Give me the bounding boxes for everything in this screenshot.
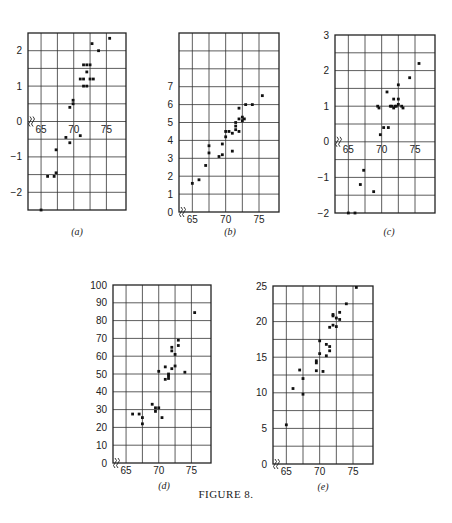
- data-point: [238, 118, 241, 121]
- x-tick-label: 65: [187, 214, 199, 225]
- data-point: [89, 63, 92, 66]
- data-point: [355, 286, 358, 289]
- data-point: [238, 107, 241, 110]
- data-point: [243, 118, 246, 121]
- y-tick-label: 0: [167, 207, 173, 218]
- scatter-plot-e: 0510152025657075: [273, 286, 373, 464]
- scatter-plot-d: 0102030405060708090100657075: [113, 285, 211, 463]
- y-tick-label: 2: [323, 65, 329, 76]
- x-tick-label: 65: [36, 124, 48, 135]
- data-point: [315, 369, 318, 372]
- data-point: [79, 134, 82, 137]
- data-point: [221, 153, 224, 156]
- data-point: [79, 78, 82, 81]
- y-tick-label: −1: [318, 172, 330, 183]
- y-tick-label: 100: [90, 280, 107, 291]
- x-tick-label: 70: [376, 144, 388, 155]
- y-tick-label: 50: [96, 369, 108, 380]
- y-tick-label: 20: [256, 316, 268, 327]
- data-point: [97, 49, 100, 52]
- data-point: [302, 377, 305, 380]
- x-tick-label: 70: [314, 466, 326, 477]
- y-tick-label: 90: [96, 297, 108, 308]
- data-point: [131, 413, 134, 416]
- data-point: [234, 125, 237, 128]
- scatter-panel-d: 0102030405060708090100657075: [113, 285, 211, 463]
- scatter-plot-a: −2−1012657075: [28, 33, 126, 210]
- y-tick-label: 40: [96, 386, 108, 397]
- y-tick-label: 70: [96, 333, 108, 344]
- data-point: [261, 94, 264, 97]
- scatter-plot-b: 01234567657075: [179, 33, 279, 212]
- y-tick-label: 10: [256, 387, 268, 398]
- data-point: [332, 324, 335, 327]
- data-point: [221, 143, 224, 146]
- y-tick-label: 30: [96, 404, 108, 415]
- data-point: [177, 344, 180, 347]
- data-point: [359, 183, 362, 186]
- y-tick-label: 6: [167, 99, 173, 110]
- data-point: [397, 98, 400, 101]
- data-point: [392, 98, 395, 101]
- y-tick-label: 5: [261, 423, 267, 434]
- data-point: [328, 326, 331, 329]
- data-point: [55, 171, 58, 174]
- scatter-panel-e: 0510152025657075: [273, 286, 373, 464]
- y-tick-label: 4: [167, 135, 173, 146]
- data-point: [154, 406, 157, 409]
- x-tick-label: 65: [343, 144, 355, 155]
- data-point: [234, 121, 237, 124]
- scatter-panel-b: 01234567657075: [179, 33, 279, 212]
- data-point: [387, 126, 390, 129]
- x-tick-label: 70: [220, 214, 232, 225]
- data-point: [68, 141, 71, 144]
- data-point: [89, 78, 92, 81]
- y-tick-label: 15: [256, 352, 268, 363]
- data-point: [138, 413, 141, 416]
- data-point: [85, 71, 88, 74]
- y-tick-label: 60: [96, 351, 108, 362]
- data-point: [108, 37, 111, 40]
- y-tick-label: 0: [261, 459, 267, 470]
- y-tick-label: −1: [11, 151, 23, 162]
- data-point: [292, 387, 295, 390]
- data-point: [154, 410, 157, 413]
- data-point: [347, 212, 350, 215]
- data-point: [328, 349, 331, 352]
- scatter-plot-c: −2−10123657075: [335, 35, 435, 213]
- data-point: [402, 107, 405, 110]
- y-tick-label: 1: [167, 189, 173, 200]
- data-point: [167, 377, 170, 380]
- data-point: [318, 339, 321, 342]
- data-point: [244, 103, 247, 106]
- data-point: [204, 164, 207, 167]
- data-point: [302, 393, 305, 396]
- data-point: [164, 365, 167, 368]
- data-point: [46, 175, 49, 178]
- data-point: [378, 107, 381, 110]
- data-point: [382, 126, 385, 129]
- data-point: [315, 359, 318, 362]
- data-point: [82, 85, 85, 88]
- data-point: [285, 423, 288, 426]
- data-point: [72, 99, 75, 102]
- data-point: [218, 155, 221, 158]
- data-point: [72, 102, 75, 105]
- data-point: [386, 91, 389, 94]
- y-tick-label: 5: [167, 117, 173, 128]
- data-point: [335, 317, 338, 320]
- data-point: [397, 83, 400, 86]
- data-point: [170, 367, 173, 370]
- data-point: [164, 378, 167, 381]
- scatter-panel-a: −2−1012657075: [28, 33, 126, 210]
- sublabel-c: (c): [369, 226, 409, 237]
- data-point: [191, 182, 194, 185]
- data-point: [372, 190, 375, 193]
- y-tick-label: 10: [96, 440, 108, 451]
- data-point: [170, 349, 173, 352]
- data-point: [40, 209, 43, 212]
- y-tick-label: −2: [11, 187, 23, 198]
- data-point: [157, 370, 160, 373]
- data-point: [318, 352, 321, 355]
- x-tick-label: 65: [121, 465, 133, 476]
